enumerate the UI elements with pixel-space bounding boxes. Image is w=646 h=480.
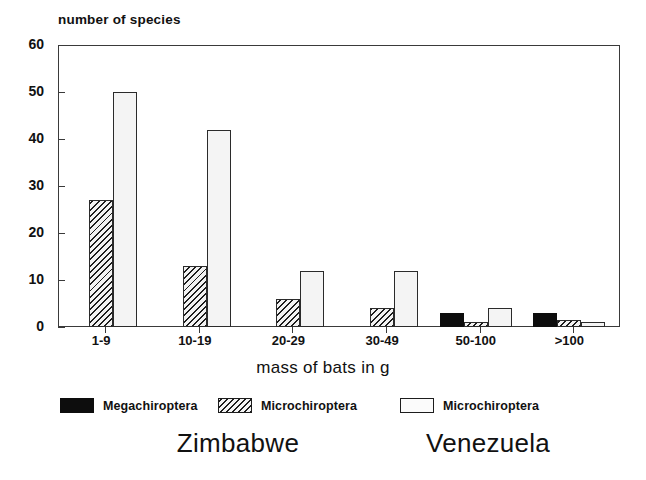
bar-zimbabwe-microchiroptera-30-49 [370, 308, 394, 327]
legend-item: Microchiroptera [400, 398, 539, 413]
x-axis-tick-label: 30-49 [365, 333, 398, 348]
y-axis-tick-mark [58, 327, 65, 328]
legend-item-label: Megachiroptera [103, 399, 197, 413]
bar-zimbabwe-microchiroptera-1-9 [89, 200, 113, 327]
bar-venezuela-microchiroptera-20-29 [300, 271, 324, 327]
legend-item: Microchiroptera [218, 398, 357, 413]
y-axis-title: number of species [58, 12, 181, 27]
bar-zimbabwe-megachiroptera->100 [533, 313, 557, 327]
y-axis-tick-label: 30 [28, 177, 44, 193]
bar-zimbabwe-microchiroptera->100 [557, 320, 581, 327]
bar-zimbabwe-microchiroptera-10-19 [183, 266, 207, 327]
y-axis-tick-label: 20 [28, 224, 44, 240]
x-axis-title: mass of bats in g [0, 358, 646, 378]
open-white-swatch [400, 398, 434, 413]
x-axis-tick-label: 50-100 [456, 333, 496, 348]
bar-venezuela-microchiroptera-10-19 [207, 130, 231, 327]
caption-venezuela: Venezuela [426, 428, 550, 459]
x-axis-tick-label: 1-9 [92, 333, 111, 348]
bar-venezuela-microchiroptera-1-9 [113, 92, 137, 327]
bar-venezuela-microchiroptera->100 [581, 322, 605, 327]
bar-zimbabwe-megachiroptera-50-100 [440, 313, 464, 327]
bar-venezuela-microchiroptera-50-100 [488, 308, 512, 327]
y-axis-tick-label: 10 [28, 271, 44, 287]
legend-item-label: Microchiroptera [261, 399, 357, 413]
bar-group-container [58, 45, 620, 327]
legend-item-label: Microchiroptera [443, 399, 539, 413]
bar-zimbabwe-microchiroptera-20-29 [276, 299, 300, 327]
y-axis-tick-label: 50 [28, 83, 44, 99]
solid-black-swatch [60, 398, 94, 413]
bar-venezuela-microchiroptera-30-49 [394, 271, 418, 327]
y-axis-tick-label: 0 [36, 318, 44, 334]
hatched-swatch [218, 398, 252, 413]
chart-legend: MegachiropteraMicrochiropteraMicrochirop… [0, 398, 646, 422]
chart-canvas: number of species 0102030405060 1-910-19… [0, 0, 646, 480]
y-axis-tick-label: 40 [28, 130, 44, 146]
legend-item: Megachiroptera [60, 398, 197, 413]
y-axis-tick-label: 60 [28, 36, 44, 52]
x-axis-tick-label: 10-19 [178, 333, 211, 348]
x-axis-tick-label: 20-29 [272, 333, 305, 348]
bar-zimbabwe-microchiroptera-50-100 [464, 322, 488, 327]
caption-zimbabwe: Zimbabwe [177, 428, 299, 459]
x-axis-tick-label: >100 [555, 333, 584, 348]
